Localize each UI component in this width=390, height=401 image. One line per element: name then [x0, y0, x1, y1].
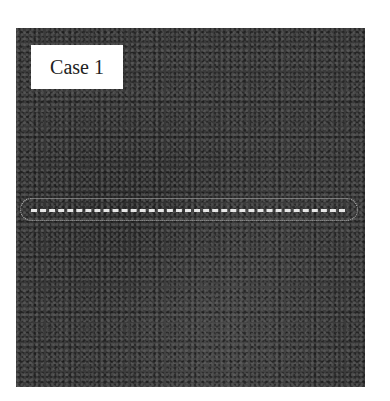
dashed-path-line	[31, 209, 345, 212]
textured-image-panel: Case 1	[16, 28, 365, 387]
case-label: Case 1	[31, 45, 123, 89]
case-label-text: Case 1	[50, 56, 104, 79]
